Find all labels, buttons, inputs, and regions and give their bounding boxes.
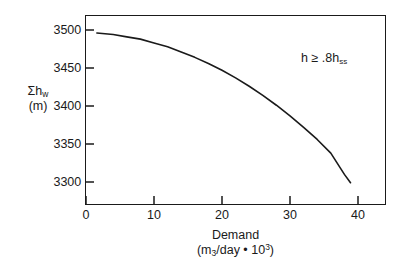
chart-annotation-constraint: h ≥ .8hss xyxy=(301,52,347,66)
x-axis-units-cube-sub: 3 xyxy=(212,248,217,258)
y-axis-label-3350: 3350 xyxy=(37,138,81,151)
x-axis-units-mid: /day • 10 xyxy=(216,243,265,257)
chart-figure: 3500 3450 3400 3350 3300 0 10 20 30 40 Σ… xyxy=(0,0,405,274)
y-axis-title-symbol: Σhw xyxy=(10,84,66,99)
annotation-subscript: ss xyxy=(339,57,347,66)
x-axis-title-text: Demand xyxy=(85,228,386,243)
y-axis-title-units: (m) xyxy=(10,99,66,113)
x-axis-label-20: 20 xyxy=(215,209,229,222)
y-axis-title: Σhw (m) xyxy=(10,84,66,113)
x-axis-units-open: (m xyxy=(197,243,212,257)
y-axis-label-3500: 3500 xyxy=(37,24,81,37)
x-axis-label-30: 30 xyxy=(283,209,297,222)
y-axis-label-3450: 3450 xyxy=(37,62,81,75)
x-axis-units-close: ) xyxy=(270,243,274,257)
y-axis-tick-labels: 3500 3450 3400 3350 3300 xyxy=(33,0,81,274)
y-axis-title-subscript: w xyxy=(42,89,48,99)
x-axis-label-0: 0 xyxy=(83,209,90,222)
annotation-text: h ≥ .8h xyxy=(301,51,339,65)
y-axis-label-3300: 3300 xyxy=(37,176,81,189)
x-axis-tick-labels: 0 10 20 30 40 xyxy=(0,209,405,225)
y-axis-title-sigma-h: Σh xyxy=(28,84,43,98)
x-axis-title-units: (m3/day • 103) xyxy=(85,243,386,259)
x-axis-label-10: 10 xyxy=(147,209,161,222)
x-axis-title: Demand (m3/day • 103) xyxy=(85,228,386,259)
x-axis-label-40: 40 xyxy=(351,209,365,222)
plot-area-frame xyxy=(85,15,386,205)
x-axis-units-exp: 3 xyxy=(265,242,270,252)
